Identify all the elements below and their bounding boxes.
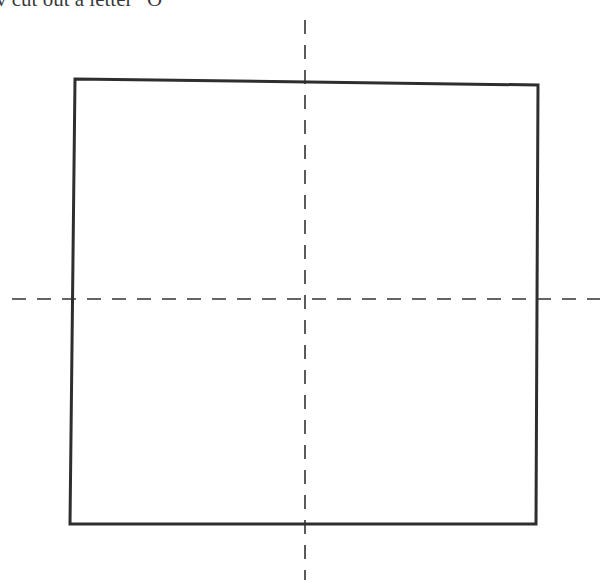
paper-square	[70, 79, 538, 524]
diagram-canvas	[0, 0, 602, 583]
